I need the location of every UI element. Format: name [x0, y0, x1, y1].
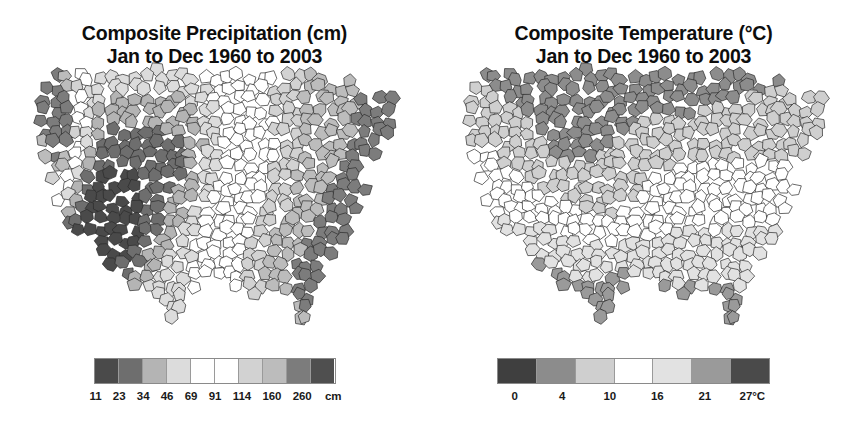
temperature-region: [500, 224, 514, 236]
precipitation-colorbar: [94, 358, 336, 384]
precipitation-legend-tick-1: 23: [113, 390, 126, 402]
precipitation-region: [381, 102, 395, 118]
precipitation-region: [346, 168, 359, 181]
temperature-region: [467, 149, 482, 164]
temperature-region: [773, 74, 785, 87]
temperature-legend-swatch-2: [575, 359, 614, 383]
temperature-region: [650, 113, 663, 125]
temperature-region: [719, 181, 733, 195]
precipitation-region: [128, 94, 142, 106]
temperature-colorbar: [497, 358, 770, 384]
temperature-legend-swatch-1: [536, 359, 575, 383]
temperature-region: [474, 172, 489, 185]
precipitation-map: [10, 62, 420, 347]
temperature-region: [512, 223, 526, 236]
temperature-region: [658, 66, 671, 81]
precipitation-legend-ticks: 112334466991114160260cm: [88, 390, 342, 402]
temperature-region: [753, 247, 767, 260]
precipitation-region: [229, 66, 242, 81]
temperature-legend-tick-3: 16: [634, 390, 682, 402]
precipitation-legend-swatch-5: [214, 359, 238, 383]
precipitation-region: [244, 148, 257, 162]
precipitation-legend-swatch-6: [238, 359, 262, 383]
precipitation-region: [278, 270, 292, 284]
temperature-panel: Composite Temperature (°C) Jan to Dec 19…: [429, 0, 858, 428]
precipitation-region: [160, 268, 174, 281]
temperature-region: [663, 102, 676, 115]
temperature-region: [697, 139, 710, 150]
precipitation-panel: Composite Precipitation (cm) Jan to Dec …: [0, 0, 429, 428]
precipitation-legend-swatch-3: [166, 359, 190, 383]
precipitation-region: [280, 283, 293, 296]
temperature-region: [696, 245, 711, 257]
precipitation-map-svg: [10, 62, 420, 347]
temperature-region: [775, 168, 788, 181]
temperature-legend-tick-2: 10: [586, 390, 634, 402]
temperature-region: [730, 225, 743, 236]
temperature-legend-swatch-4: [652, 359, 691, 383]
precipitation-region: [369, 148, 383, 161]
precipitation-legend: 112334466991114160260cm: [0, 358, 429, 402]
precipitation-legend-tick-3: 46: [161, 390, 174, 402]
precipitation-legend-swatch-2: [142, 359, 166, 383]
precipitation-legend-swatch-1: [118, 359, 142, 383]
temperature-region: [707, 270, 721, 284]
precipitation-region: [336, 213, 351, 226]
precipitation-region: [267, 149, 280, 161]
precipitation-region: [269, 105, 284, 117]
precipitation-region: [34, 115, 48, 127]
precipitation-region: [162, 255, 173, 268]
temperature-title-line1: Composite Temperature (°C): [429, 22, 858, 45]
precipitation-region: [290, 181, 304, 195]
precipitation-legend-unit: cm: [325, 390, 341, 402]
precipitation-region: [183, 136, 195, 150]
temperature-legend-swatch-3: [614, 359, 653, 383]
precipitation-region: [165, 309, 178, 324]
temperature-region: [694, 278, 708, 291]
temperature-region: [673, 148, 686, 162]
precipitation-legend-tick-4: 69: [185, 390, 198, 402]
temperature-legend: 0410162127°C: [429, 358, 858, 402]
temperature-legend-tick-0: 0: [491, 390, 539, 402]
precipitation-region: [368, 133, 379, 148]
temperature-region: [765, 213, 780, 226]
temperature-region: [591, 255, 602, 268]
precipitation-region: [291, 170, 304, 181]
precipitation-region: [184, 157, 198, 169]
temperature-legend-tick-4: 21: [681, 390, 729, 402]
temperature-region: [522, 201, 536, 212]
precipitation-legend-swatch-4: [190, 359, 214, 383]
precipitation-region: [281, 67, 296, 81]
precipitation-region: [45, 172, 60, 185]
precipitation-legend-swatch-8: [286, 359, 310, 383]
temperature-region: [463, 115, 477, 127]
precipitation-region: [91, 128, 104, 140]
temperature-region: [589, 268, 603, 281]
precipitation-region: [38, 149, 53, 164]
temperature-region: [684, 107, 696, 120]
temperature-legend-tick-5: 27°C: [729, 390, 777, 402]
precipitation-region: [234, 102, 247, 115]
precipitation-region: [95, 210, 108, 223]
precipitation-legend-tick-6: 114: [233, 390, 251, 402]
precipitation-title-line1: Composite Precipitation (cm): [0, 22, 429, 45]
temperature-region: [613, 157, 627, 169]
precipitation-region: [301, 225, 314, 236]
temperature-legend-swatch-5: [691, 359, 730, 383]
temperature-region: [710, 67, 725, 81]
temperature-legend-ticks: 0410162127°C: [491, 390, 776, 402]
temperature-region: [797, 133, 808, 148]
temperature-region: [709, 283, 722, 296]
temperature-region: [720, 170, 733, 181]
precipitation-region: [71, 224, 85, 236]
temperature-region: [617, 281, 630, 295]
precipitation-legend-tick-8: 260: [293, 390, 312, 402]
precipitation-legend-tick-2: 34: [137, 390, 150, 402]
precipitation-region: [344, 74, 356, 87]
precipitation-region: [324, 247, 338, 260]
precipitation-region: [268, 139, 281, 150]
precipitation-region: [93, 201, 107, 212]
temperature-region: [594, 309, 607, 324]
temperature-region: [696, 149, 709, 161]
temperature-region: [524, 210, 537, 223]
